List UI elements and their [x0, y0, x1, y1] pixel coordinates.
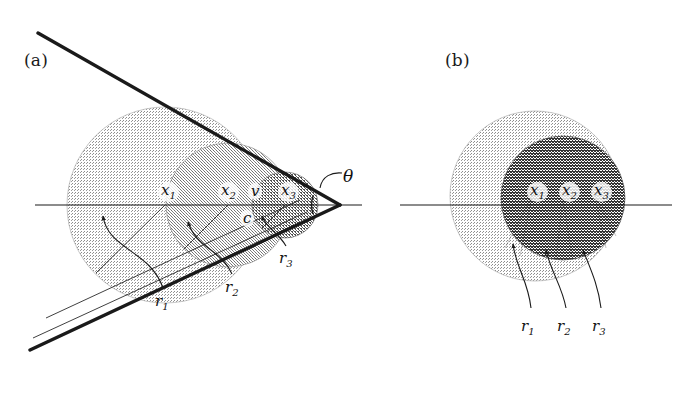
label-r1-a: r1 — [155, 292, 169, 312]
figure-container: (a) (b) x1 x2 v x3 c r1 r2 r3 θ x1 x2 x3… — [0, 0, 692, 406]
label-x3-a: x3 — [278, 182, 299, 202]
label-r3-a: r3 — [279, 249, 293, 269]
label-r1-b: r1 — [521, 317, 535, 337]
label-r3-b: r3 — [592, 317, 606, 337]
panel-label-b: (b) — [445, 50, 470, 70]
label-x1-b: x1 — [527, 182, 548, 202]
panel-a-graphics — [30, 33, 362, 350]
theta-leader — [320, 173, 342, 188]
label-x1-a: x1 — [158, 182, 179, 202]
label-theta: θ — [343, 166, 353, 186]
figure-canvas — [0, 0, 692, 406]
label-x2-b: x2 — [559, 182, 580, 202]
panel-b-graphics — [400, 111, 672, 308]
label-r2-a: r2 — [225, 278, 239, 298]
label-x2-a: x2 — [218, 182, 239, 202]
label-r2-b: r2 — [557, 317, 571, 337]
label-x3-b: x3 — [591, 182, 612, 202]
panel-label-a: (a) — [24, 50, 48, 70]
